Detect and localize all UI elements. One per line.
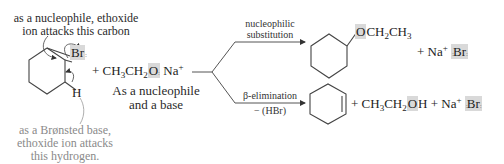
base-attack-arrow [80,98,84,124]
ether-oxygen-highlight: O [355,24,366,39]
cyclohexene-ring [310,84,346,124]
reactant-leaving-group: Br: [70,46,86,62]
bromine-highlight: Br [70,45,85,60]
bromide-highlight: :Br: [451,44,468,59]
substitution-product-ring [311,32,357,78]
nucleophile-annotation: as a nucleophile, ethoxide ion attacks t… [6,12,146,38]
base-annotation: as a Brønsted base, ethoxide ion attacks… [0,124,130,163]
ethoxide-reagent: + CH3CH2O: Na+ [92,64,184,80]
proton-abstraction-arrow [66,71,74,82]
elimination-label: β-elimination − (HBr) [236,90,304,116]
lone-pair-dots: : [85,51,86,59]
bromide-highlight-2: :Br: [465,96,482,111]
substitution-byproduct: + Na+ :Br: [417,45,468,61]
reagent-role-label: As a nucleophile and a base [112,84,200,112]
reactant-beta-hydrogen: H [72,86,81,100]
elimination-byproducts: + CH3CH2OH + Na+ :Br: [351,97,482,113]
ether-product: OCH2CH3 [355,25,412,39]
nucleophile-attack-arrow [43,36,56,58]
substitution-label: nucleophilic substitution [236,18,304,40]
ethanol-oxygen-highlight: O [407,96,418,111]
oxygen-highlight: O: [148,63,160,78]
